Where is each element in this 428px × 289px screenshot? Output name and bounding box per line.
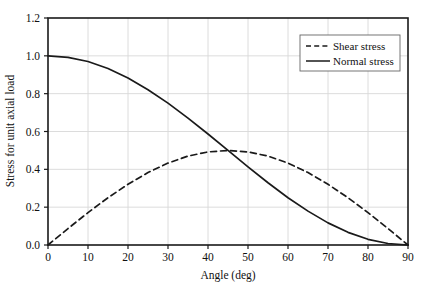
x-tick-label: 40	[202, 251, 214, 263]
x-tick-label: 30	[162, 251, 174, 263]
x-tick-label: 70	[322, 251, 334, 263]
legend-label-shear-stress: Shear stress	[333, 40, 385, 52]
x-tick-label: 20	[122, 251, 134, 263]
stress-vs-angle-chart: 0102030405060708090 0.00.20.40.60.81.01.…	[0, 0, 428, 289]
x-tick-label: 90	[402, 251, 414, 263]
chart-figure: 0102030405060708090 0.00.20.40.60.81.01.…	[0, 0, 428, 289]
chart-legend[interactable]: Shear stress Normal stress	[300, 35, 400, 71]
y-tick-label: 0.0	[26, 239, 41, 251]
x-tick-label: 80	[362, 251, 374, 263]
x-axis-title: Angle (deg)	[200, 269, 255, 282]
y-tick-label: 0.6	[26, 126, 41, 138]
y-tick-label: 0.8	[26, 88, 41, 100]
x-tick-label: 10	[82, 251, 94, 263]
y-tick-label: 0.2	[26, 201, 41, 213]
y-axis-title: Stress for unit axial load	[4, 75, 16, 188]
y-tick-label: 1.2	[26, 12, 41, 24]
x-tick-label: 0	[45, 251, 51, 263]
x-tick-label: 50	[242, 251, 254, 263]
x-tick-label: 60	[282, 251, 294, 263]
y-tick-label: 0.4	[26, 163, 41, 175]
y-tick-label: 1.0	[26, 50, 41, 62]
legend-label-normal-stress: Normal stress	[333, 55, 394, 67]
